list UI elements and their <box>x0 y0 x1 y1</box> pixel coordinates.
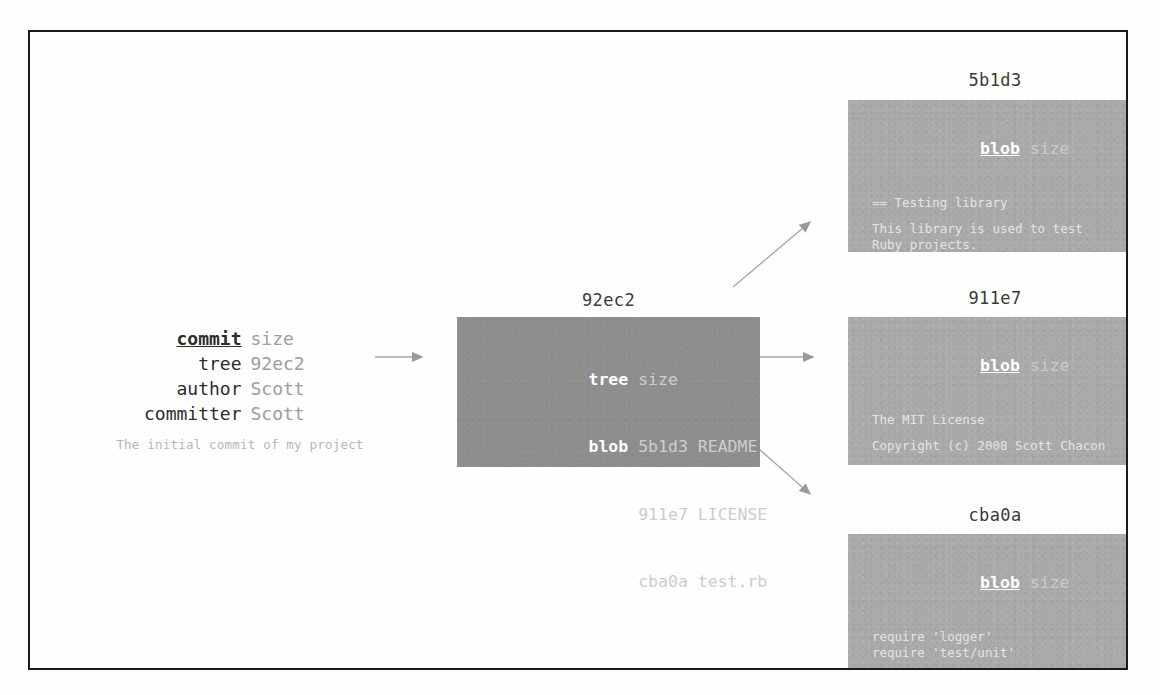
blob-size-label: size <box>1020 573 1070 592</box>
tree-object-hash-label: 92ec2 <box>457 290 760 310</box>
blob-object: blob size The MIT LicenseCopyright (c) 2… <box>848 317 1128 465</box>
blob-type-label: blob <box>980 573 1020 592</box>
commit-field-key: tree <box>120 351 242 376</box>
commit-field-key: committer <box>120 401 242 426</box>
tree-entry-key: blob <box>588 505 628 524</box>
blob-size-label: size <box>1020 356 1070 375</box>
tree-entry-row: blob cba0a test.rb <box>509 549 767 617</box>
arrow-tree-to-blob-5b1d3 <box>733 222 810 287</box>
tree-entry-row: blob 911e7 LICENSE <box>509 481 767 549</box>
commit-field-value: size <box>242 326 361 351</box>
commit-field-row: tree 92ec2 <box>90 351 390 376</box>
commit-field-key: author <box>120 376 242 401</box>
blob-object: blob size == Testing libraryThis library… <box>848 100 1128 252</box>
tree-entry-key: blob <box>588 572 628 591</box>
tree-entry-value: 911e7 LICENSE <box>628 505 767 524</box>
commit-field-row: committer Scott <box>90 401 390 426</box>
blob-header: blob size <box>848 554 1128 611</box>
tree-entry-row: tree size <box>509 346 767 414</box>
tree-entry-list: tree size blob 5b1d3 README blob 911e7 L… <box>509 346 767 616</box>
tree-entry-value: size <box>628 370 678 389</box>
tree-entry-key: blob <box>588 437 628 456</box>
blob-size-label: size <box>1020 139 1070 158</box>
blob-type-label: blob <box>980 356 1020 375</box>
tree-entry-key: tree <box>588 370 628 389</box>
commit-field-row: author Scott <box>90 376 390 401</box>
commit-field-value: 92ec2 <box>242 351 361 376</box>
blob-content: require 'logger'require 'test/unit'class… <box>848 629 1128 670</box>
tree-entry-row: blob 5b1d3 README <box>509 414 767 482</box>
commit-field-row: commit size <box>90 326 390 351</box>
commit-object: commit size tree 92ec2 author Scott comm… <box>90 322 390 452</box>
tree-entry-value: 5b1d3 README <box>628 437 757 456</box>
figure-frame: 98ca9 commit size tree 92ec2 author Scot… <box>28 30 1128 670</box>
commit-message: The initial commit of my project <box>90 437 390 452</box>
commit-field-value: Scott <box>242 376 361 401</box>
blob-content: The MIT LicenseCopyright (c) 2008 Scott … <box>848 412 1128 465</box>
commit-field-key: commit <box>120 326 242 351</box>
commit-field-value: Scott <box>242 401 361 426</box>
tree-entry-value: cba0a test.rb <box>628 572 767 591</box>
commit-field-list: commit size tree 92ec2 author Scott comm… <box>90 326 390 426</box>
blob-object-hash-label: 5b1d3 <box>848 70 1128 90</box>
tree-object: tree size blob 5b1d3 README blob 911e7 L… <box>457 317 760 467</box>
blob-object-hash-label: cba0a <box>848 505 1128 525</box>
blob-type-label: blob <box>980 139 1020 158</box>
blob-header: blob size <box>848 120 1128 177</box>
blob-object: blob size require 'logger'require 'test/… <box>848 534 1128 670</box>
blob-header: blob size <box>848 337 1128 394</box>
blob-object-hash-label: 911e7 <box>848 288 1128 308</box>
blob-content: == Testing libraryThis library is used t… <box>848 195 1128 252</box>
